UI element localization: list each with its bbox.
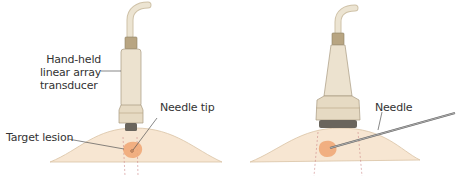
right-panel bbox=[250, 8, 455, 176]
needle-tip-label: Needle tip bbox=[160, 101, 214, 114]
transducer-label: Hand-held linear array transducer bbox=[40, 53, 101, 92]
target-lesion-label: Target lesion bbox=[6, 131, 73, 144]
transducer-label-line3: transducer bbox=[40, 79, 101, 92]
target-lesion-right bbox=[319, 141, 337, 157]
needle-label: Needle bbox=[375, 101, 412, 114]
transducer-label-line1: Hand-held bbox=[40, 53, 101, 66]
linear-transducer bbox=[121, 49, 141, 107]
transducer-label-line2: linear array bbox=[40, 66, 101, 79]
curved-transducer bbox=[324, 45, 352, 96]
